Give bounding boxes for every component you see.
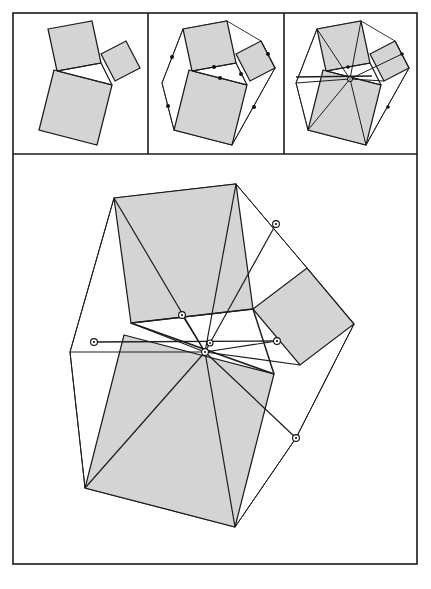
panel-stage-3 xyxy=(296,21,409,145)
midpoint-hull-upper-right-core xyxy=(275,223,277,225)
midpoint-dot-hull-left xyxy=(170,55,174,59)
panel-stage-2 xyxy=(162,21,275,145)
midpoint-right-edge-core xyxy=(276,340,278,342)
square-on-side-b-large xyxy=(253,268,354,365)
midpoint-hull-lower-right-core xyxy=(295,437,297,439)
square-on-side-c xyxy=(174,70,247,145)
hull-edge-left-lower xyxy=(70,352,85,488)
panel-stage-1 xyxy=(39,21,140,145)
midpoint-top-edge-core xyxy=(181,314,183,316)
figure-root xyxy=(0,0,431,589)
horizontal-axis xyxy=(296,76,372,77)
geometry-figure-canvas xyxy=(0,0,431,589)
midpoint-dot-hull-lower-right xyxy=(252,105,256,109)
midpoint-dot-hull-right xyxy=(400,52,404,56)
hull-edge-left-upper xyxy=(296,29,317,83)
midpoint-dot-top xyxy=(212,65,216,69)
hull-edge-top-right xyxy=(236,184,307,268)
midpoint-dot-hull-lower-right xyxy=(386,105,390,109)
midpoint-hull-left-core xyxy=(93,341,95,343)
midpoint-dot-right xyxy=(239,72,243,76)
midpoint-dot-hull-right xyxy=(266,52,270,56)
center-point-core xyxy=(209,342,211,344)
midpoint-dot-inner xyxy=(218,76,222,80)
panel-main-enlarged xyxy=(70,184,354,527)
square-on-side-a xyxy=(317,21,370,71)
panel-stage-2-content xyxy=(162,21,275,145)
square-on-side-a xyxy=(48,21,101,71)
panel-stage-1-content xyxy=(39,21,140,145)
hull-edge-left-upper xyxy=(70,198,114,352)
midpoint-dot-hull-lower-left xyxy=(166,104,170,108)
center-point-lower-core xyxy=(204,351,206,353)
panel-main-enlarged-content xyxy=(70,184,354,527)
midpoint-dot-top xyxy=(346,65,350,69)
square-on-side-c xyxy=(39,70,112,145)
panel-layer xyxy=(39,21,409,527)
square-on-side-a xyxy=(183,21,236,71)
chord-mid-top xyxy=(182,315,205,352)
center-point-core xyxy=(349,78,351,80)
horizontal-axis-large xyxy=(94,341,277,342)
panel-stage-3-content xyxy=(296,21,409,145)
hull-edge-left-lower xyxy=(296,83,308,130)
